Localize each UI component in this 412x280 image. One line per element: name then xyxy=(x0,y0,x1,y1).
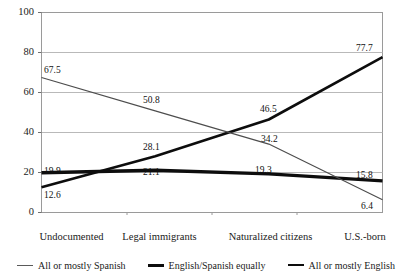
legend-item-all-or-mostly-spanish[interactable]: All or mostly Spanish xyxy=(17,260,126,271)
legend-label-all-or-mostly-english: All or mostly English xyxy=(309,260,395,271)
x-axis-category-us-born: U.S.-born xyxy=(320,231,410,242)
y-tick-marks xyxy=(38,13,42,213)
data-label-english-naturalized-citizens: 46.5 xyxy=(260,104,277,114)
legend-label-english-spanish-equally: English/Spanish equally xyxy=(169,260,266,271)
line-bold-icon xyxy=(288,264,304,266)
legend-item-english-spanish-equally[interactable]: English/Spanish equally xyxy=(148,260,266,271)
x-axis-category-naturalized-citizens: Naturalized citizens xyxy=(208,231,333,242)
line-chart: 100 80 60 40 20 0 Undocumented Legal imm… xyxy=(0,0,412,280)
data-label-spanish-undocumented: 67.5 xyxy=(44,65,61,75)
y-axis-tick-100: 100 xyxy=(0,7,34,18)
y-axis-tick-0: 0 xyxy=(0,207,34,218)
data-label-english-undocumented: 12.6 xyxy=(44,190,61,200)
legend-item-all-or-mostly-english[interactable]: All or mostly English xyxy=(288,260,395,271)
data-label-equally-undocumented: 19.9 xyxy=(44,166,61,176)
y-axis-tick-20: 20 xyxy=(0,167,34,178)
y-axis-tick-60: 60 xyxy=(0,87,34,98)
x-axis-category-legal-immigrants: Legal immigrants xyxy=(97,231,222,242)
y-axis-tick-40: 40 xyxy=(0,127,34,138)
data-label-spanish-naturalized-citizens: 34.2 xyxy=(261,134,278,144)
line-medium-icon xyxy=(148,264,164,267)
data-label-english-legal-immigrants: 28.1 xyxy=(143,142,160,152)
data-label-english-us-born: 77.7 xyxy=(356,43,373,53)
data-label-equally-legal-immigrants: 21.1 xyxy=(143,167,160,177)
data-label-spanish-legal-immigrants: 50.8 xyxy=(143,95,160,105)
data-label-equally-us-born: 15.8 xyxy=(356,170,373,180)
y-axis-tick-80: 80 xyxy=(0,47,34,58)
line-thin-icon xyxy=(17,265,33,266)
legend-label-all-or-mostly-spanish: All or mostly Spanish xyxy=(38,260,126,271)
plot-area-border xyxy=(42,13,383,213)
chart-legend: All or mostly Spanish English/Spanish eq… xyxy=(0,256,412,274)
data-label-spanish-us-born: 6.4 xyxy=(361,201,373,211)
data-label-equally-naturalized-citizens: 19.3 xyxy=(255,165,272,175)
